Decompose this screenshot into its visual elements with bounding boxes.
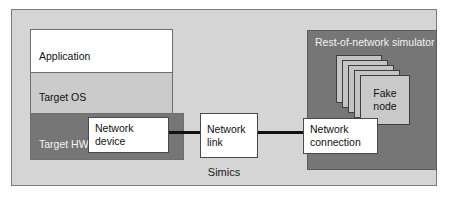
fake-node-label: Fake node — [361, 87, 409, 113]
diagram-canvas: Application Target OS Target HW Rest-of-… — [0, 0, 451, 207]
fake-node-stack: Fake node — [336, 55, 428, 127]
layer-application-label: Application — [39, 50, 90, 63]
box-network-device: Network device — [88, 117, 169, 153]
simics-container: Application Target OS Target HW Rest-of-… — [11, 9, 437, 186]
layer-target-hw-label: Target HW — [39, 138, 89, 151]
box-network-connection: Network connection — [303, 118, 378, 154]
connector-link-to-connection — [256, 131, 304, 134]
simics-label: Simics — [12, 166, 436, 179]
simulator-title: Rest-of-network simulator — [315, 36, 435, 49]
layer-target-os-label: Target OS — [39, 91, 86, 104]
layer-target-os: Target OS — [30, 72, 173, 114]
box-network-link-label: Network link — [207, 123, 246, 149]
box-network-device-label: Network device — [95, 122, 134, 148]
box-network-connection-label: Network connection — [310, 123, 361, 149]
connector-device-to-link — [168, 131, 202, 134]
box-network-link: Network link — [200, 113, 258, 158]
layer-application: Application — [30, 29, 173, 73]
